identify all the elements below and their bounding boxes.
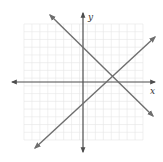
decreasing-line — [50, 15, 153, 116]
x-axis-label: x — [150, 86, 155, 96]
increasing-line — [35, 37, 155, 148]
y-axis-label: y — [87, 12, 94, 22]
coordinate-graph: y x — [0, 0, 163, 162]
